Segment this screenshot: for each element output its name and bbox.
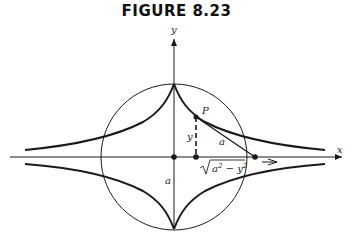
radius-a-label: a — [165, 175, 171, 186]
tractrix-lower-left — [25, 164, 174, 229]
tractrix-lower-right — [174, 164, 325, 229]
tractrix-upper-left — [25, 84, 174, 150]
tangent-x-intercept — [252, 154, 258, 160]
tractrix-diagram: y x P y a a a2 − y2 — [0, 0, 353, 240]
point-p — [194, 115, 199, 120]
tangent-a-label: a — [219, 136, 225, 147]
point-p-label: P — [201, 105, 209, 116]
vertical-y-label: y — [186, 131, 193, 142]
svg-text:a2 − y2: a2 − y2 — [212, 162, 248, 174]
sqrt-label: a2 − y2 — [200, 160, 248, 174]
origin-point — [171, 154, 177, 160]
foot-point — [193, 154, 199, 160]
x-axis-label: x — [337, 144, 343, 155]
y-axis-label: y — [170, 24, 177, 35]
